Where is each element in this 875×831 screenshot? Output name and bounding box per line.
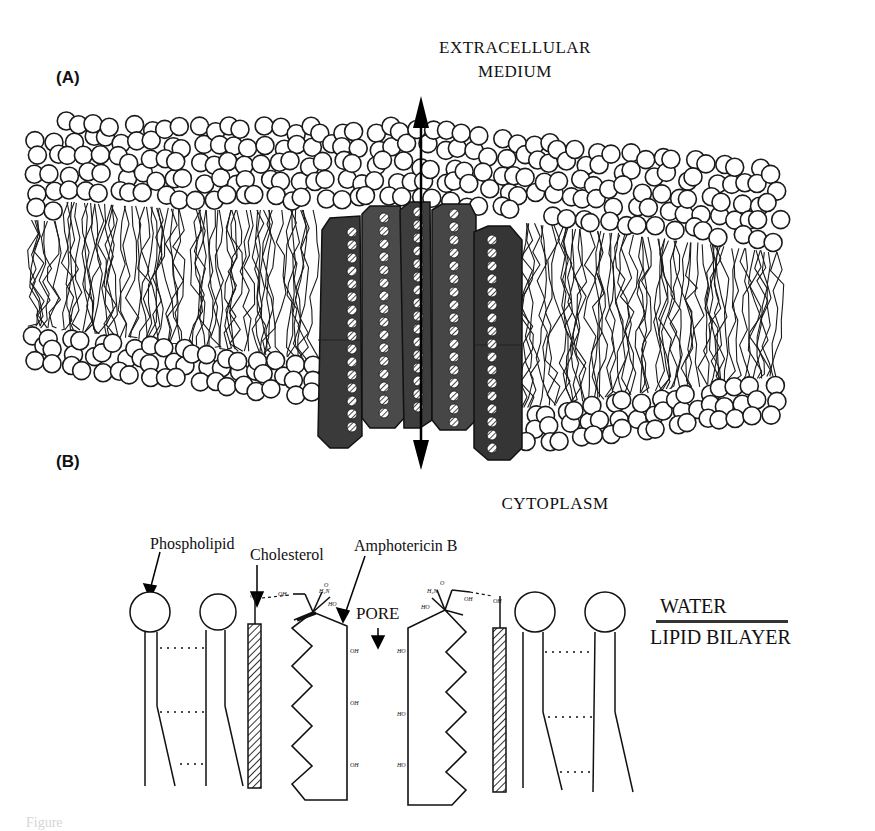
phospholipid-left-1 [130, 592, 175, 786]
chem-h2n-left: H₂N [319, 588, 329, 594]
chem-ho-chain-3: HO [397, 762, 406, 768]
membrane-bilayer-illustration [0, 0, 875, 480]
chem-ch-right: OH [493, 598, 502, 604]
chem-ho-left: HO [328, 601, 337, 607]
legend-lipid-bilayer: LIPID BILAYER [650, 626, 850, 649]
annotation-arrows [144, 552, 384, 648]
hbond-dashes [262, 592, 492, 598]
amphotericin-annotation: Amphotericin B [354, 537, 458, 555]
legend-water: WATER [650, 595, 850, 618]
panel-b-label: (B) [56, 452, 80, 472]
amphotericin-right [408, 590, 470, 805]
phospholipid-right-2 [585, 592, 633, 792]
pore-label: PORE [356, 604, 399, 624]
cholesterol-annotation: Cholesterol [250, 546, 324, 564]
water-bilayer-legend: WATER LIPID BILAYER [650, 595, 850, 649]
chem-oh-chain-2: OH [350, 700, 359, 706]
cholesterol-left [248, 596, 261, 788]
chem-o-right: O [440, 580, 444, 586]
hydrogen-bond-dots-right [545, 652, 592, 772]
figure-caption-partial: Figure [26, 815, 63, 831]
cholesterol-right [493, 596, 506, 792]
chem-ho-chain-1: HO [397, 648, 406, 654]
hydrogen-bond-dots-left [160, 648, 205, 764]
chem-ho-right: HO [421, 604, 430, 610]
chem-oh-chain-3: OH [350, 762, 359, 768]
phospholipid-right-1 [515, 592, 562, 790]
phospholipid-annotation: Phospholipid [150, 535, 234, 553]
chem-oh-right: OH [464, 596, 473, 602]
phospholipid-left-2 [200, 594, 243, 786]
amphotericin-left [292, 592, 347, 800]
cytoplasm-label: CYTOPLASM [480, 494, 630, 514]
chem-ho-chain-2: HO [397, 711, 406, 717]
chem-oh-left: OH [278, 591, 287, 597]
chem-h2n-right: H₂N [427, 588, 437, 594]
chem-oh-chain-1: OH [350, 648, 359, 654]
chem-ch-left: CH [250, 593, 258, 599]
legend-divider [656, 620, 788, 623]
